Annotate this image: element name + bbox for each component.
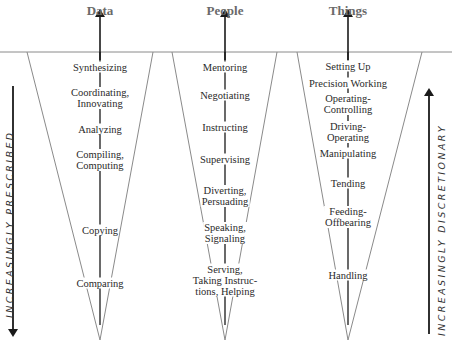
data-item-synthesizing: Synthesizing — [72, 62, 128, 73]
data-item-coordinating: Coordinating, Innovating — [70, 87, 130, 109]
side-label-prescribed: INCREASINGLY PRESCRIBED — [4, 130, 15, 318]
people-item-mentoring: Mentoring — [202, 62, 248, 73]
things-item-setting-up: Setting Up — [324, 61, 371, 72]
things-item-manipulating: Manipulating — [319, 148, 378, 159]
people-item-negotiating: Negotiating — [199, 90, 251, 101]
column-title-data: Data — [87, 3, 114, 19]
people-item-supervising: Supervising — [199, 154, 251, 165]
people-item-serving: Serving, Taking Instruc- tions, Helping — [192, 264, 258, 297]
column-title-things: Things — [329, 3, 367, 19]
data-item-comparing: Comparing — [75, 278, 124, 289]
data-item-copying: Copying — [81, 225, 119, 236]
people-item-speaking: Speaking, Signaling — [203, 222, 247, 244]
column-title-people: People — [207, 3, 244, 19]
people-item-instructing: Instructing — [201, 122, 249, 133]
things-item-handling: Handling — [327, 270, 368, 281]
things-item-driving-operating: Driving- Operating — [326, 121, 370, 143]
people-item-diverting: Diverting, Persuading — [201, 185, 250, 207]
data-item-analyzing: Analyzing — [77, 124, 123, 135]
things-item-operating-controlling: Operating- Controlling — [323, 93, 373, 115]
side-label-discretionary: INCREASINGLY DISCRETIONARY — [436, 124, 447, 336]
things-item-precision-working: Precision Working — [308, 78, 388, 89]
data-item-compiling: Compiling, Computing — [75, 149, 125, 171]
things-item-tending: Tending — [330, 178, 366, 189]
things-item-feeding-offbearing: Feeding- Offbearing — [324, 206, 372, 228]
